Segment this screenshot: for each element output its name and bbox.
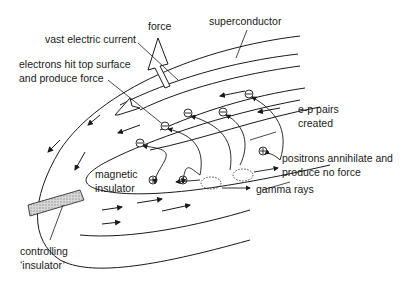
label-positrons-line1: positrons annihilate and — [282, 152, 393, 165]
controlling-insulator — [28, 190, 84, 216]
label-positrons-line2: produce no force — [282, 166, 361, 179]
label-gamma-rays: gamma rays — [256, 183, 314, 196]
label-controlling-line1: controlling — [20, 245, 68, 258]
field-line — [120, 54, 298, 105]
diagram-canvas: force superconductor vast electric curre… — [0, 0, 410, 282]
force-arrow — [148, 38, 170, 88]
label-electrons-line2: and produce force — [19, 72, 104, 85]
label-force: force — [148, 20, 171, 33]
electron-force-arrow — [115, 98, 140, 115]
label-ep-pairs-line1: e-p pairs — [298, 103, 339, 116]
field-line — [80, 210, 250, 236]
label-magnetic-line2: insulator — [95, 182, 135, 195]
label-superconductor: superconductor — [209, 15, 281, 28]
label-ep-pairs-line2: created — [298, 117, 333, 130]
field-line — [160, 88, 305, 130]
label-magnetic-line1: magnetic — [95, 168, 138, 181]
label-electrons-line1: electrons hit top surface — [19, 58, 130, 71]
field-line — [150, 107, 320, 150]
label-controlling-line2: ‘insulator’ — [20, 259, 65, 272]
label-vast-electric-current: vast electric current — [45, 33, 136, 46]
